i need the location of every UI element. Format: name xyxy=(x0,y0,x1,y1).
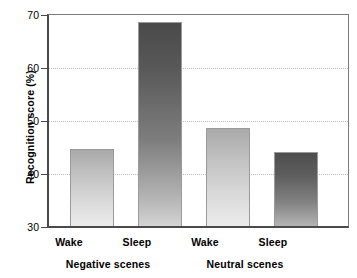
y-tick-mark-70 xyxy=(41,15,49,16)
y-tick-label-30: 30 xyxy=(9,222,39,233)
y-tick-label-40: 40 xyxy=(9,169,39,180)
plot-area: 70 60 50 40 30 xyxy=(47,14,349,228)
bar-chart-figure: Recognition score (%) 70 60 50 40 30 Wak… xyxy=(0,0,357,278)
y-tick-mark-30 xyxy=(41,227,49,228)
y-tick-label-50: 50 xyxy=(9,116,39,127)
y-tick-mark-40 xyxy=(41,174,49,175)
bar-wake-neutral[interactable] xyxy=(206,128,250,226)
y-tick-mark-60 xyxy=(41,68,49,69)
y-tick-mark-50 xyxy=(41,121,49,122)
bar-sleep-neutral[interactable] xyxy=(274,152,318,226)
bar-sleep-negative[interactable] xyxy=(138,22,182,226)
y-tick-label-70: 70 xyxy=(9,10,39,21)
x-tick-label-sleep-neutral: Sleep xyxy=(228,236,318,248)
bar-wake-negative[interactable] xyxy=(70,149,114,226)
bars xyxy=(49,15,348,226)
y-axis-title: Recognition score (%) xyxy=(24,27,36,227)
group-label-neutral-scenes: Neutral scenes xyxy=(160,258,330,270)
y-tick-label-60: 60 xyxy=(9,63,39,74)
